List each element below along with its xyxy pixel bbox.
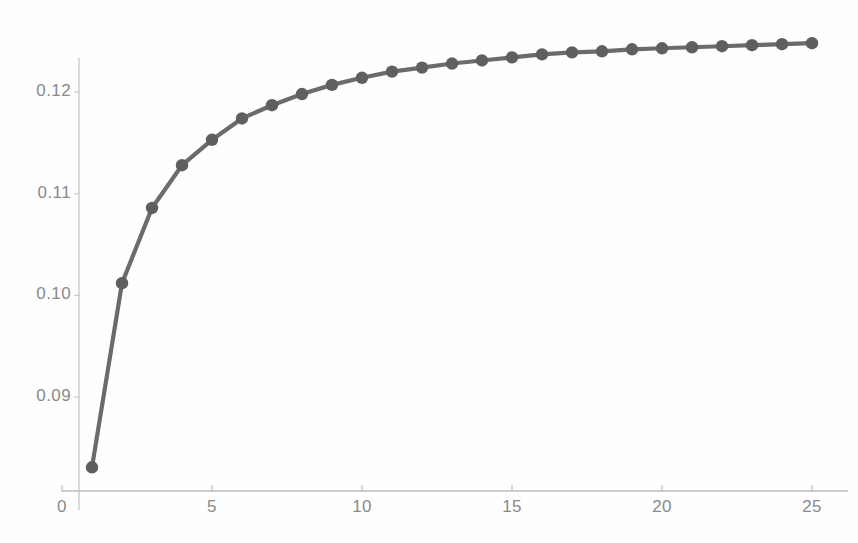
data-point: [536, 48, 548, 60]
y-tick-label: 0.09: [0, 386, 71, 406]
data-point: [386, 65, 398, 77]
data-point: [266, 99, 278, 111]
data-point: [506, 51, 518, 63]
data-point: [686, 41, 698, 53]
data-point: [416, 61, 428, 73]
data-point: [566, 46, 578, 58]
data-point: [446, 57, 458, 69]
axis-lines: [62, 58, 848, 510]
data-point: [356, 72, 368, 84]
chart-container: 0.090.100.110.12 0510152025: [0, 0, 858, 543]
plot-area: [0, 0, 858, 543]
data-point-markers: [86, 37, 818, 473]
x-tick-label: 10: [332, 497, 392, 517]
data-point: [746, 39, 758, 51]
data-point: [476, 54, 488, 66]
x-tick-label: 25: [782, 497, 842, 517]
data-point: [296, 88, 308, 100]
data-point: [176, 159, 188, 171]
data-point: [326, 79, 338, 91]
y-tick-label: 0.12: [0, 81, 71, 101]
data-line: [92, 43, 812, 467]
data-point: [146, 202, 158, 214]
x-tick-label: 20: [632, 497, 692, 517]
data-point: [116, 277, 128, 289]
data-point: [236, 112, 248, 124]
data-point: [86, 461, 98, 473]
data-point: [206, 134, 218, 146]
x-tick-label: 15: [482, 497, 542, 517]
data-point: [626, 43, 638, 55]
x-tick-label: 0: [32, 497, 92, 517]
y-tick-label: 0.11: [0, 183, 71, 203]
data-point: [656, 42, 668, 54]
data-point: [716, 40, 728, 52]
y-tick-label: 0.10: [0, 284, 71, 304]
data-point: [806, 37, 818, 49]
data-point: [596, 45, 608, 57]
x-tick-label: 5: [182, 497, 242, 517]
data-point: [776, 38, 788, 50]
x-axis-ticks: [62, 485, 812, 491]
